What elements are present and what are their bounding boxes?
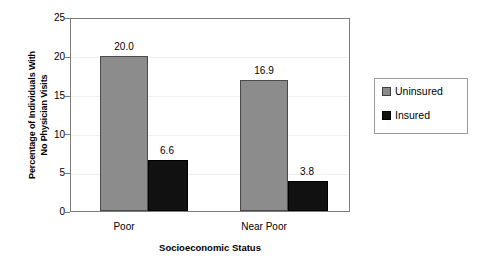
y-axis-tick-labels: 25 20 15 10 5 0 xyxy=(48,18,65,212)
data-label-near-poor-uninsured: 16.9 xyxy=(238,65,290,76)
legend-label-insured: Insured xyxy=(395,110,430,121)
y-tick-label-10: 10 xyxy=(48,130,65,140)
legend-swatch-insured-icon xyxy=(382,111,391,120)
legend-item-uninsured[interactable]: Uninsured xyxy=(382,86,443,97)
y-tick-mark-0 xyxy=(65,212,70,213)
x-axis-title: Socioeconomic Status xyxy=(70,242,350,253)
y-tick-label-5: 5 xyxy=(48,168,65,178)
chart-legend: Uninsured Insured xyxy=(374,78,468,134)
y-axis-title-line-1: Percentage of Individuals With xyxy=(26,15,38,215)
y-axis-title: Percentage of Individuals With No Physic… xyxy=(26,15,50,215)
y-tick-label-15: 15 xyxy=(48,91,65,101)
legend-swatch-uninsured-icon xyxy=(382,87,391,96)
bar-chart-figure: Percentage of Individuals With No Physic… xyxy=(0,0,482,267)
x-tick-label-near-poor: Near Poor xyxy=(238,221,290,232)
data-label-poor-insured: 6.6 xyxy=(141,145,193,156)
x-tick-label-poor: Poor xyxy=(98,221,150,232)
legend-label-uninsured: Uninsured xyxy=(395,86,443,97)
bar-poor-insured[interactable] xyxy=(148,160,188,211)
legend-item-insured[interactable]: Insured xyxy=(382,110,430,121)
y-tick-label-25: 25 xyxy=(48,13,65,23)
bar-near-poor-insured[interactable] xyxy=(288,181,328,211)
bar-near-poor-uninsured[interactable] xyxy=(240,80,288,211)
y-tick-label-0: 0 xyxy=(48,207,65,217)
bar-poor-uninsured[interactable] xyxy=(100,56,148,211)
data-label-near-poor-insured: 3.8 xyxy=(281,166,333,177)
data-label-poor-uninsured: 20.0 xyxy=(98,41,150,52)
y-tick-label-20: 20 xyxy=(48,52,65,62)
